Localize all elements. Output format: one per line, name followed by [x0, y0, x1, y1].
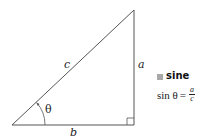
triangle-figure	[0, 0, 223, 140]
sine-formula: sin θ = a c	[157, 86, 195, 103]
hypotenuse-label: c	[64, 59, 70, 70]
sine-diagram: c a b θ sine sin θ = a c	[0, 0, 223, 140]
legend-title: sine	[166, 71, 189, 81]
legend-square-icon	[157, 74, 163, 80]
fraction-denominator: c	[189, 95, 195, 103]
right-triangle	[12, 10, 134, 125]
formula-equals: =	[180, 89, 186, 101]
adjacent-side-label: b	[70, 127, 77, 138]
formula-fraction: a c	[189, 86, 195, 103]
opposite-side-label: a	[138, 59, 145, 70]
angle-label: θ	[45, 104, 52, 115]
formula-lhs: sin θ	[157, 89, 178, 101]
right-angle-marker	[127, 118, 134, 125]
